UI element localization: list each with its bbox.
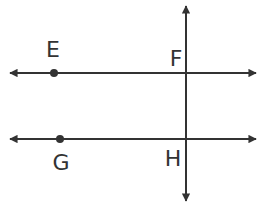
label-g: G xyxy=(52,150,69,175)
point-e xyxy=(50,69,58,77)
label-h: H xyxy=(165,146,182,171)
label-e: E xyxy=(46,37,60,62)
label-f: F xyxy=(170,46,183,71)
parallel-lines-diagram: E F G H xyxy=(0,0,269,207)
point-g xyxy=(56,135,64,143)
